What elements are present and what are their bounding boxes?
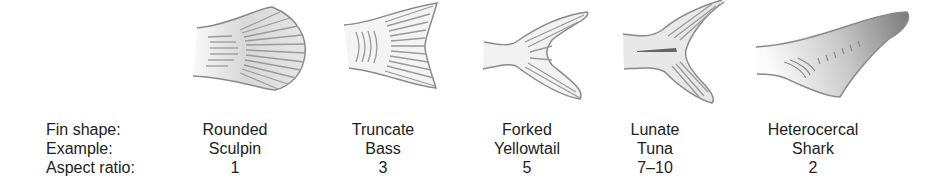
- example-value: Bass: [333, 141, 433, 157]
- fin-shape-value: Truncate: [333, 122, 433, 138]
- fin-shape-row: Fin shape: Rounded Truncate Forked Lunat…: [0, 122, 938, 138]
- forked-fin-icon: [483, 12, 588, 99]
- aspect-ratio-value: 1: [192, 160, 278, 176]
- lunate-fin-icon: [623, 0, 724, 103]
- truncate-fin-icon: [344, 3, 437, 88]
- example-label: Example:: [46, 141, 113, 157]
- example-value: Yellowtail: [470, 141, 584, 157]
- aspect-ratio-value: 7–10: [610, 160, 700, 176]
- fin-shape-value: Heterocercal: [748, 122, 878, 138]
- fin-shape-value: Forked: [470, 122, 584, 138]
- aspect-ratio-label: Aspect ratio:: [46, 160, 135, 176]
- example-row: Example: Sculpin Bass Yellowtail Tuna Sh…: [0, 141, 938, 157]
- fin-shape-value: Rounded: [192, 122, 278, 138]
- fin-illustrations: [0, 0, 938, 120]
- fin-shape-label: Fin shape:: [46, 122, 121, 138]
- rounded-fin-icon: [193, 7, 305, 90]
- example-value: Tuna: [610, 141, 700, 157]
- aspect-ratio-value: 3: [333, 160, 433, 176]
- fin-shape-value: Lunate: [610, 122, 700, 138]
- aspect-ratio-value: 2: [748, 160, 878, 176]
- aspect-ratio-row: Aspect ratio: 1 3 5 7–10 2: [0, 160, 938, 176]
- aspect-ratio-value: 5: [470, 160, 584, 176]
- example-value: Sculpin: [192, 141, 278, 157]
- example-value: Shark: [748, 141, 878, 157]
- heterocercal-fin-icon: [756, 12, 909, 97]
